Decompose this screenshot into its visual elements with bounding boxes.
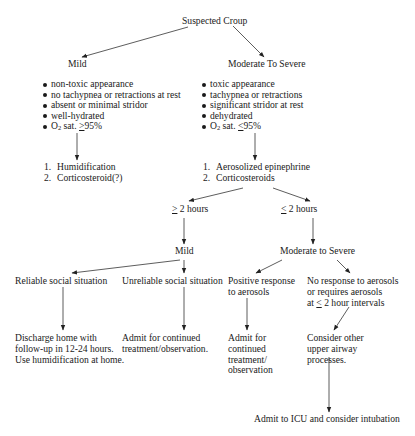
mild-criterion: non-toxic appearance bbox=[42, 79, 181, 90]
mild-heading: Mild bbox=[68, 59, 87, 70]
outcome-moderate-to-severe: Moderate to Severe bbox=[280, 246, 355, 257]
severe-o2-criterion: O2 sat. <95% bbox=[201, 121, 304, 132]
action-admit-positive: Admit for continued treatment/ observati… bbox=[228, 333, 273, 376]
leaf-no-response: No response to aerosols or requires aero… bbox=[307, 276, 398, 308]
mild-treatment-item: 2.Corticosteroid(?) bbox=[44, 173, 123, 184]
root-node-suspected-croup: Suspected Croup bbox=[182, 16, 247, 27]
flowchart-connectors bbox=[0, 0, 415, 436]
action-admit-icu: Admit to ICU and consider intubation bbox=[254, 414, 400, 425]
action-consider-other: Consider other upper airway processes. bbox=[307, 333, 364, 365]
mild-o2-criterion: O2 sat. >95% bbox=[42, 121, 181, 132]
severe-treatment-list: 1.Aerosolized epinephrine 2.Corticostero… bbox=[203, 162, 310, 184]
severe-treatment-item: 2.Corticosteroids bbox=[203, 173, 310, 184]
severe-criteria-list: toxic appearance tachypnea or retraction… bbox=[201, 79, 304, 132]
leaf-positive-response: Positive response to aerosols bbox=[228, 276, 295, 298]
mild-criteria-list: non-toxic appearance no tachypnea or ret… bbox=[42, 79, 181, 132]
action-admit-unreliable: Admit for continued treatment/observatio… bbox=[122, 333, 208, 355]
outcome-mild: Mild bbox=[175, 246, 194, 257]
branch-ge-2-hours: > 2 hours bbox=[172, 204, 208, 215]
branch-le-2-hours: < 2 hours bbox=[281, 204, 317, 215]
leaf-reliable-social: Reliable social situation bbox=[15, 276, 107, 287]
action-discharge-home: Discharge home with follow-up in 12-24 h… bbox=[15, 333, 124, 365]
severe-criterion: toxic appearance bbox=[201, 79, 304, 90]
leaf-unreliable-social: Unreliable social situation bbox=[122, 276, 223, 287]
mild-treatment-list: 1.Humidification 2.Corticosteroid(?) bbox=[44, 162, 123, 184]
severe-heading: Moderate To Severe bbox=[228, 59, 305, 70]
